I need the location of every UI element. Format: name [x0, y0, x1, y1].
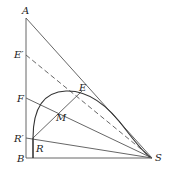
label-e-prime: E′: [13, 49, 24, 60]
label-a: A: [21, 5, 29, 16]
label-m: M: [55, 112, 67, 123]
label-s: S: [155, 152, 162, 163]
geometry-diagram: A E′ F R′ B R M E S: [0, 0, 174, 174]
line-eprime-s-dashed: [26, 55, 152, 158]
line-rprime-s: [26, 138, 152, 158]
label-e: E: [78, 82, 87, 93]
line-as: [26, 18, 152, 158]
label-r-prime: R′: [13, 133, 25, 144]
label-f: F: [16, 93, 25, 104]
label-r: R: [35, 143, 44, 154]
label-b: B: [16, 153, 24, 164]
